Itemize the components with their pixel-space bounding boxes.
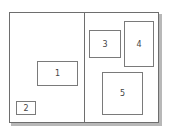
region-label: 3 [102,40,107,49]
region-box-4: 4 [124,21,154,67]
region-box-3: 3 [89,30,121,58]
region-label: 4 [136,40,141,49]
region-label: 2 [23,104,28,113]
region-box-5: 5 [102,72,143,115]
region-label: 1 [55,69,60,78]
region-box-1: 1 [37,61,78,86]
region-box-2: 2 [16,101,36,115]
page-divider [84,12,85,123]
region-label: 5 [120,89,125,98]
